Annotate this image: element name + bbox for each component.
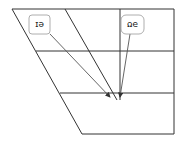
arrow-left	[50, 34, 110, 97]
label-left: eɪ	[35, 20, 44, 30]
label-right: əʊ	[127, 20, 139, 30]
arrow-right	[120, 34, 130, 97]
label-right-box: əʊ	[121, 15, 144, 34]
vowel-chart: eɪ əʊ	[0, 0, 182, 142]
label-left-box: eɪ	[29, 15, 50, 34]
diphthong-arrows	[50, 34, 130, 97]
grid-lines	[36, 9, 174, 100]
